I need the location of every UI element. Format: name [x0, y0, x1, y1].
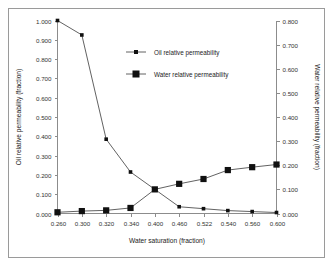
data-point-marker [225, 167, 231, 173]
data-point-marker [202, 207, 206, 211]
y-axis-right-tick-label: 0.400 [283, 114, 299, 121]
x-axis-tick-label: 0.540 [221, 220, 237, 227]
y-axis-left-tick-label: 0.900 [36, 37, 52, 44]
data-point-marker [79, 208, 85, 214]
data-point-marker [273, 161, 279, 167]
data-point-marker [176, 181, 182, 187]
data-point-marker [127, 205, 133, 211]
y-axis-left-tick-label: 0.400 [36, 133, 52, 140]
y-axis-left-tick-label: 0.100 [36, 191, 52, 198]
x-axis-tick-label: 0.522 [197, 220, 213, 227]
data-point-marker [129, 170, 133, 174]
x-axis-tick-label: 0.600 [270, 220, 286, 227]
data-point-marker [56, 19, 60, 23]
legend-marker-water [133, 71, 140, 78]
data-point-marker [104, 137, 108, 141]
y-axis-right-title: Water relative permeability (fraction) [313, 64, 321, 170]
x-axis-tick-label: 0.460 [172, 220, 188, 227]
data-point-marker [275, 211, 279, 215]
x-axis-tick-label: 0.300 [75, 220, 91, 227]
data-point-marker [250, 210, 254, 214]
y-axis-right-tick-label: 0.600 [283, 66, 299, 73]
y-axis-right-tick-label: 0.800 [283, 18, 299, 25]
x-axis-tick-label: 0.560 [245, 220, 261, 227]
x-axis-tick-label: 0.400 [148, 220, 164, 227]
data-point-marker [80, 33, 84, 37]
y-axis-right-tick-label: 0.500 [283, 90, 299, 97]
y-axis-left-tick-label: 0.000 [36, 211, 52, 218]
data-point-marker [152, 186, 158, 192]
y-axis-right-tick-label: 0.200 [283, 162, 299, 169]
data-point-marker [103, 207, 109, 213]
data-point-marker [54, 209, 60, 215]
y-axis-left-tick-label: 0.700 [36, 75, 52, 82]
y-axis-right-tick-label: 0.000 [283, 211, 299, 218]
y-axis-right-tick-label: 0.300 [283, 138, 299, 145]
x-axis-ticks: 0.2600.3000.3200.3400.4000.4600.5220.540… [51, 214, 286, 227]
data-point-marker [249, 164, 255, 170]
data-point-marker [226, 209, 230, 213]
y-axis-right-tick-label: 0.700 [283, 42, 299, 49]
y-axis-left-tick-label: 1.000 [36, 18, 52, 25]
y-axis-left-tick-label: 0.600 [36, 95, 52, 102]
y-axis-left-tick-label: 0.500 [36, 114, 52, 121]
y-axis-left-ticks: 0.0000.1000.2000.3000.4000.5000.6000.700… [36, 18, 57, 218]
series-line-water [58, 165, 277, 213]
legend-marker-oil [134, 50, 138, 54]
legend-label-oil: Oil relative permeability [154, 49, 220, 57]
chart-legend: Oil relative permeability Water relative… [126, 49, 229, 79]
data-point-marker [177, 205, 181, 209]
x-axis-title: Water saturation (fraction) [129, 237, 205, 245]
y-axis-left-tick-label: 0.800 [36, 56, 52, 63]
x-axis-tick-label: 0.260 [51, 220, 67, 227]
chart-figure: 0.0000.1000.2000.3000.4000.5000.6000.700… [0, 0, 336, 273]
y-axis-left-tick-label: 0.200 [36, 172, 52, 179]
chart-plot-area: 0.0000.1000.2000.3000.4000.5000.6000.700… [0, 0, 336, 273]
y-axis-left-title: Oil relative permeability (fraction) [15, 69, 23, 165]
legend-label-water: Water relative permeability [154, 71, 229, 79]
y-axis-right-tick-label: 0.100 [283, 186, 299, 193]
x-axis-tick-label: 0.320 [99, 220, 115, 227]
y-axis-left-tick-label: 0.300 [36, 153, 52, 160]
x-axis-tick-label: 0.340 [124, 220, 140, 227]
data-point-marker [200, 176, 206, 182]
y-axis-right-ticks: 0.0000.1000.2000.3000.4000.5000.6000.700… [277, 18, 299, 218]
